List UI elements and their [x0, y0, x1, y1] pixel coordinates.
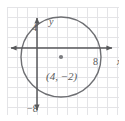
- circle-graph-figure: y x 4 8 −8 (4, −2): [0, 0, 125, 121]
- y-tick-label-negative-8: −8: [27, 104, 38, 114]
- center-point-marker: [59, 55, 63, 59]
- x-axis-label: x: [117, 57, 119, 67]
- graph-content: [7, 7, 119, 115]
- center-point-label: (4, −2): [46, 71, 77, 82]
- y-axis-label: y: [49, 17, 53, 27]
- y-tick-label-4: 4: [32, 23, 37, 33]
- x-tick-label-8: 8: [93, 57, 98, 67]
- plot-area: y x 4 8 −8 (4, −2): [7, 7, 119, 115]
